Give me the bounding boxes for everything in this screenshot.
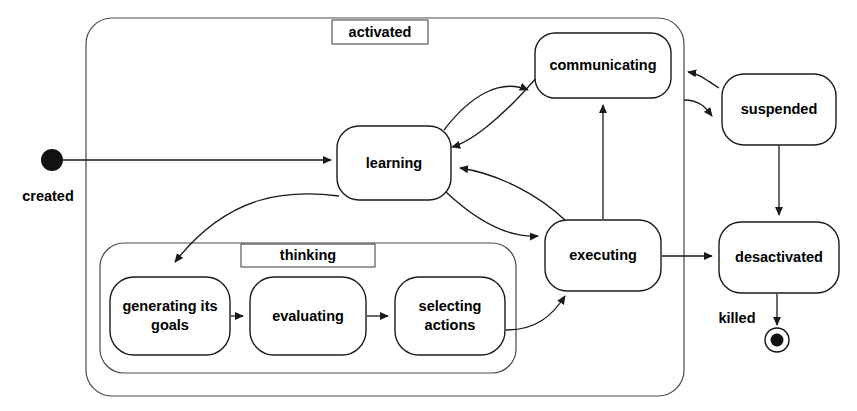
state-executing-label: executing bbox=[569, 247, 637, 263]
initial-state-dot bbox=[41, 149, 63, 171]
state-generating-its-goals-label-line1: generating its bbox=[122, 298, 217, 314]
transition-suspended-to-activated bbox=[688, 72, 719, 88]
state-generating-its-goals-label-line2: goals bbox=[151, 317, 189, 333]
state-selecting-actions-label-line2: actions bbox=[425, 317, 476, 333]
transition-executing-to-learning bbox=[460, 168, 566, 221]
state-evaluating[interactable]: evaluating bbox=[250, 277, 366, 355]
transition-selecting-to-executing bbox=[506, 296, 565, 330]
state-selecting-actions-label-line1: selecting bbox=[419, 298, 482, 314]
state-desactivated[interactable]: desactivated bbox=[719, 222, 839, 293]
initial-pseudostate-created[interactable]: created bbox=[22, 149, 74, 204]
composite-activated-label: activated bbox=[349, 24, 412, 40]
final-pseudostate-killed[interactable]: killed bbox=[718, 310, 789, 352]
transition-learning-to-executing bbox=[446, 192, 538, 236]
final-state-label: killed bbox=[718, 310, 755, 326]
state-learning[interactable]: learning bbox=[337, 126, 451, 200]
state-executing[interactable]: executing bbox=[545, 220, 661, 291]
final-state-dot bbox=[771, 334, 784, 347]
state-evaluating-label: evaluating bbox=[272, 308, 344, 324]
initial-state-label: created bbox=[22, 188, 74, 204]
uml-state-diagram: activated thinking bbox=[0, 0, 857, 411]
diagram-canvas: activated thinking bbox=[0, 0, 857, 411]
composite-thinking-label: thinking bbox=[280, 247, 336, 263]
state-selecting-actions[interactable]: selecting actions bbox=[395, 277, 505, 355]
transition-communicating-to-learning bbox=[452, 77, 537, 147]
state-suspended[interactable]: suspended bbox=[722, 74, 836, 145]
state-communicating-label: communicating bbox=[549, 57, 656, 73]
transition-activated-to-suspended bbox=[684, 100, 712, 116]
state-suspended-label: suspended bbox=[741, 101, 818, 117]
state-generating-its-goals[interactable]: generating its goals bbox=[110, 277, 230, 355]
transition-learning-to-communicating bbox=[444, 86, 528, 130]
state-learning-label: learning bbox=[366, 155, 422, 171]
state-desactivated-label: desactivated bbox=[735, 249, 823, 265]
state-communicating[interactable]: communicating bbox=[535, 33, 671, 98]
